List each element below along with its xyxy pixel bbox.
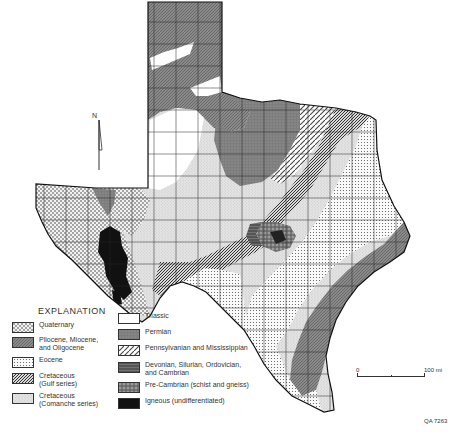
legend-item-permian: Permian (118, 328, 171, 340)
swatch-igneous-icon (118, 398, 140, 409)
figure-id: QA 7263 (424, 418, 447, 424)
scale-tick (424, 373, 425, 376)
legend-label: Quaternary (39, 321, 74, 329)
scale-tick (391, 375, 392, 377)
swatch-eocene-icon (12, 357, 34, 368)
legend-item-cretaceous-gulf: Cretaceous (Gulf series) (12, 372, 77, 387)
scale-tick (357, 373, 358, 376)
legend-item-quaternary: Quaternary (12, 321, 74, 333)
swatch-quaternary-icon (12, 322, 34, 333)
swatch-triassic-icon (118, 313, 140, 324)
legend-label: Pliocene, Miocene, and Oligocene (39, 336, 98, 351)
north-arrow-icon (92, 112, 108, 172)
legend-label: Triassic (145, 312, 169, 320)
scale-end-label: 100 mi (424, 367, 442, 373)
swatch-pliocene-icon (12, 337, 34, 348)
legend-item-igneous: Igneous (undifferentiated) (118, 397, 225, 409)
legend-title: EXPLANATION (38, 306, 106, 316)
legend-item-devonian-silurian-ordovician-cambrian: Devonian, Silurian, Ordovician, and Camb… (118, 361, 241, 376)
swatch-pennsylvanian-icon (118, 345, 140, 356)
legend-label: Cretaceous (Gulf series) (39, 372, 77, 387)
north-arrow: N (92, 112, 108, 172)
swatch-devonian-icon (118, 362, 140, 373)
legend-label: Igneous (undifferentiated) (145, 397, 225, 405)
legend-item-pre-cambrian: Pre-Cambrian (schist and gneiss) (118, 381, 249, 393)
swatch-cretaceous-comanche-icon (12, 393, 34, 404)
legend-label: Eocene (39, 356, 63, 364)
legend-label: Devonian, Silurian, Ordovician, and Camb… (145, 361, 241, 376)
legend-label: Pennsylvanian and Mississippian (145, 344, 248, 352)
swatch-pre-cambrian-icon (118, 382, 140, 393)
legend-item-pennsylvanian-mississippian: Pennsylvanian and Mississippian (118, 344, 248, 356)
legend-item-cretaceous-comanche: Cretaceous (Comanche series) (12, 392, 98, 407)
scale-bar: 0 100 mi (356, 367, 456, 387)
swatch-permian-icon (118, 329, 140, 340)
swatch-cretaceous-gulf-icon (12, 373, 34, 384)
legend-item-triassic: Triassic (118, 312, 169, 324)
legend-label: Pre-Cambrian (schist and gneiss) (145, 381, 249, 389)
legend-item-eocene: Eocene (12, 356, 63, 368)
legend-label: Permian (145, 328, 171, 336)
legend-label: Cretaceous (Comanche series) (39, 392, 98, 407)
map-legend: EXPLANATION Quaternary Pliocene, Miocene… (12, 306, 312, 426)
legend-item-pliocene-miocene-oligocene: Pliocene, Miocene, and Oligocene (12, 336, 98, 351)
